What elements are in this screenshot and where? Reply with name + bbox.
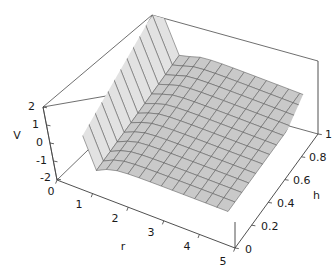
y-axis-title: h	[313, 189, 320, 202]
x-axis-title: r	[121, 240, 126, 253]
x-tick-0: 0	[48, 185, 55, 198]
surface-plot-3d: 2 1 0 -1 -2 V 0 1 2 3 4 5 r	[0, 0, 336, 278]
z-tick-0: 0	[36, 136, 43, 149]
y-tick-0-2: 0.2	[261, 220, 279, 233]
y-tick-0-8: 0.8	[309, 151, 327, 164]
z-tick-2: 2	[28, 100, 35, 113]
z-tick-1: 1	[32, 118, 39, 131]
x-tick-2: 2	[112, 212, 119, 225]
z-tick-minus-2: -2	[40, 171, 51, 184]
y-tick-1: 1	[325, 128, 332, 141]
x-tick-5: 5	[220, 255, 227, 268]
plot-canvas: 2 1 0 -1 -2 V 0 1 2 3 4 5 r	[0, 0, 336, 278]
x-tick-3: 3	[148, 226, 155, 239]
z-axis-title: V	[13, 129, 21, 142]
y-tick-0: 0	[245, 243, 252, 256]
y-tick-0-4: 0.4	[277, 197, 295, 210]
z-tick-minus-1: -1	[36, 154, 47, 167]
x-tick-1: 1	[76, 198, 83, 211]
x-tick-4: 4	[184, 240, 191, 253]
y-tick-0-6: 0.6	[293, 174, 311, 187]
